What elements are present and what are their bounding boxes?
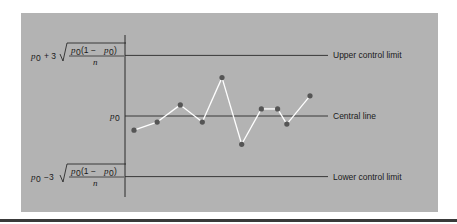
ucl-num-mid: (1 − (81, 45, 96, 55)
series-segment (278, 109, 287, 124)
data-point (275, 106, 280, 111)
ucl-num-close: ) (114, 45, 117, 55)
lcl-num-close: ) (114, 166, 117, 176)
data-point (200, 119, 205, 124)
central-formula: p 0 (109, 111, 120, 123)
series-segment (134, 122, 157, 130)
series-segment (180, 105, 202, 122)
lcl-formula: p 0 −3 p 0 (1 − p 0 ) n (30, 164, 126, 188)
data-point (131, 128, 136, 133)
lcl-op: −3 (44, 172, 54, 182)
lcl-p-sub: 0 (36, 174, 41, 184)
data-point (219, 75, 224, 80)
series-segment (222, 78, 242, 145)
data-point (307, 93, 312, 98)
control-chart: Upper control limitCentral lineLower con… (0, 0, 457, 224)
lower-control-limit-label: Lower control limit (333, 172, 402, 182)
data-point (155, 119, 160, 124)
data-point (178, 102, 183, 107)
series-segment (157, 105, 180, 122)
series-segment (287, 96, 310, 124)
lcl-num-mid: (1 − (81, 166, 96, 176)
data-point (284, 121, 289, 126)
lcl-den: n (93, 178, 98, 188)
series-segment (242, 109, 262, 144)
series-segment (202, 78, 222, 122)
data-point (239, 142, 244, 147)
ucl-p-sub: 0 (36, 53, 41, 63)
ucl-den: n (93, 57, 98, 67)
central-p-sub: 0 (115, 113, 120, 123)
ucl-op: + 3 (44, 51, 56, 61)
central-line-label: Central line (333, 111, 376, 121)
upper-control-limit-label: Upper control limit (333, 50, 402, 60)
ucl-formula: p 0 + 3 p 0 (1 − p 0 ) n (30, 43, 126, 67)
data-point (259, 106, 264, 111)
